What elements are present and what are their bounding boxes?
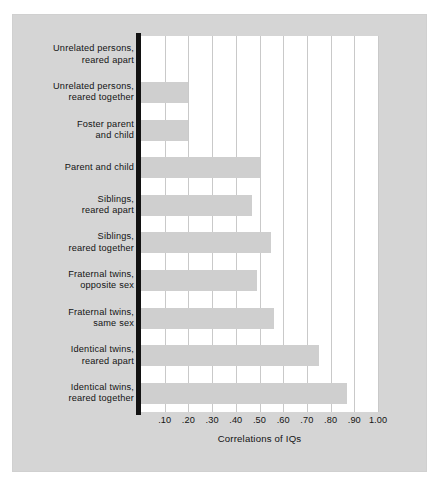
x-tick-label: .40: [229, 414, 242, 426]
x-tick-label: .60: [277, 414, 290, 426]
category-label: Identical twins, reared together: [16, 382, 134, 405]
x-tick-label: .70: [300, 414, 313, 426]
plot-area: [141, 36, 378, 412]
bar: [141, 345, 319, 366]
bar: [141, 120, 188, 141]
bar: [141, 270, 257, 291]
bar: [141, 195, 252, 216]
x-axis-title: Correlations of IQs: [141, 433, 378, 444]
category-label: Fraternal twins, opposite sex: [16, 269, 134, 292]
x-tick-label: .30: [206, 414, 219, 426]
category-label: Unrelated persons, reared together: [16, 81, 134, 104]
category-label: Identical twins, reared apart: [16, 344, 134, 367]
x-tick-label: .10: [158, 414, 171, 426]
bar: [141, 232, 271, 253]
gridline: [331, 36, 332, 412]
bar: [141, 308, 274, 329]
category-label: Unrelated persons, reared apart: [16, 43, 134, 66]
x-tick-label: .80: [324, 414, 337, 426]
bar: [141, 383, 347, 404]
x-tick-label: .90: [348, 414, 361, 426]
x-tick-label: 1.00: [369, 414, 387, 426]
x-tick-label: .50: [253, 414, 266, 426]
category-axis-labels: Unrelated persons, reared apartUnrelated…: [16, 36, 134, 412]
category-label: Siblings, reared apart: [16, 194, 134, 217]
y-axis-line: [136, 33, 141, 415]
x-axis-tick-labels: .10.20.30.40.50.60.70.80.901.00: [141, 414, 391, 430]
gridline: [354, 36, 355, 412]
bar: [141, 157, 260, 178]
category-label: Foster parent and child: [16, 119, 134, 142]
category-label: Parent and child: [16, 162, 134, 173]
gridline: [378, 36, 379, 412]
figure-canvas: Unrelated persons, reared apartUnrelated…: [0, 0, 445, 488]
x-tick-label: .20: [182, 414, 195, 426]
category-label: Siblings, reared together: [16, 231, 134, 254]
category-label: Fraternal twins, same sex: [16, 307, 134, 330]
bar: [141, 82, 188, 103]
